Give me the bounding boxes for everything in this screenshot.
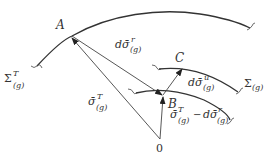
- inner-surface-start-tick: [128, 89, 137, 94]
- vector-oa-label: σ̄ T (g): [88, 92, 107, 112]
- stress-space-diagram: A C B 0 Σ T (g) Σ (g) σ̄ T (g) dσ̄ r (g)…: [0, 0, 272, 156]
- svg-text:σ̄: σ̄: [88, 95, 96, 108]
- svg-text:T: T: [178, 105, 184, 114]
- svg-text:T: T: [13, 69, 19, 78]
- outer-surface-start-tick: [31, 65, 42, 68]
- svg-text:dσ̄: dσ̄: [203, 108, 218, 121]
- vector-ab-label: dσ̄ r (g): [115, 35, 141, 54]
- svg-text:(g): (g): [178, 116, 189, 125]
- svg-text:(g): (g): [203, 83, 214, 92]
- svg-text:r: r: [131, 35, 136, 44]
- svg-text:(g): (g): [217, 116, 228, 125]
- inner-surface-label: Σ (g): [244, 77, 263, 92]
- svg-text:(g): (g): [252, 83, 263, 92]
- vector-oa: [72, 38, 160, 139]
- svg-text:(g): (g): [13, 81, 24, 90]
- svg-text:u: u: [204, 73, 209, 82]
- svg-text:dσ̄: dσ̄: [188, 76, 203, 89]
- svg-text:Σ: Σ: [4, 72, 12, 85]
- svg-text:Σ: Σ: [244, 77, 252, 90]
- point-c-label: C: [175, 51, 184, 65]
- svg-text:(g): (g): [96, 103, 107, 112]
- vector-ob-label: σ̄ T (g) − dσ̄ r (g): [170, 105, 228, 125]
- vector-ob: [160, 97, 163, 139]
- origin-label: 0: [156, 142, 163, 155]
- point-a-label: A: [55, 18, 65, 32]
- outer-surface-label: Σ T (g): [4, 69, 24, 90]
- svg-text:σ̄: σ̄: [170, 108, 178, 121]
- svg-text:−: −: [193, 109, 201, 120]
- svg-text:T: T: [97, 92, 103, 101]
- svg-text:r: r: [218, 105, 223, 114]
- svg-text:(g): (g): [130, 45, 141, 54]
- outer-surface-curve: [37, 12, 250, 66]
- svg-text:dσ̄: dσ̄: [115, 38, 130, 51]
